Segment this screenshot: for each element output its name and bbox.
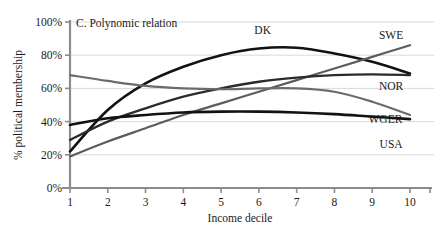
y-tick-label: 100% (35, 16, 62, 28)
series-label-wger: WGER (369, 113, 403, 125)
series-line-nor (70, 74, 410, 140)
x-tick-label: 4 (180, 196, 186, 208)
x-tick-label: 3 (143, 196, 149, 208)
panel-title: C. Polynomic relation (76, 17, 178, 30)
y-axis-title: % political membership (12, 50, 25, 160)
y-tick-label: 0% (47, 182, 63, 194)
x-tick-label: 10 (404, 196, 416, 208)
y-tick-label: 80% (41, 49, 63, 61)
x-tick-label: 9 (369, 196, 375, 208)
x-tick-label: 7 (294, 196, 300, 208)
x-axis-title: Income decile (208, 212, 273, 224)
data-series (70, 45, 410, 156)
y-tick-label: 40% (41, 116, 63, 128)
series-label-swe: SWE (379, 29, 403, 41)
x-tick-label: 2 (105, 196, 111, 208)
x-tick-label: 1 (67, 196, 73, 208)
series-label-nor: NOR (379, 80, 404, 92)
series-label-usa: USA (380, 138, 404, 150)
series-line-usa (70, 75, 410, 115)
x-tick-label: 6 (256, 196, 262, 208)
x-tick-label: 5 (218, 196, 224, 208)
series-label-dk: DK (254, 24, 271, 36)
y-axis-ticks: 0%20%40%60%80%100% (35, 16, 70, 194)
y-tick-label: 60% (41, 82, 63, 94)
x-tick-label: 8 (332, 196, 338, 208)
y-tick-label: 20% (41, 149, 63, 161)
series-line-wger (70, 112, 410, 125)
polynomic-relation-chart: 0%20%40%60%80%100% 12345678910 DKSWENORW… (0, 0, 444, 226)
x-axis-ticks: 12345678910 (67, 188, 430, 208)
chart-canvas: 0%20%40%60%80%100% 12345678910 DKSWENORW… (0, 0, 444, 226)
